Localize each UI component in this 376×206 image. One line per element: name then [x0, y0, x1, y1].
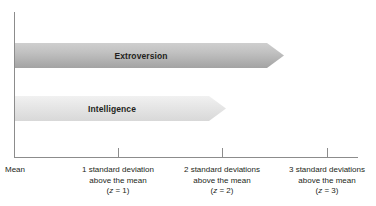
- bar-intelligence: Intelligence: [15, 96, 226, 121]
- x-axis-tick-3: [327, 148, 328, 157]
- standard-deviation-arrow-chart: Extroversion Intelligence Mean 1 standar…: [0, 0, 376, 206]
- x-axis-label-3-line2: above the mean: [298, 176, 355, 185]
- bar-extroversion-shape: [15, 43, 284, 68]
- x-axis-label-3: 3 standard deviations above the mean (z …: [265, 165, 376, 197]
- bar-intelligence-shape: [15, 96, 226, 121]
- x-axis-tick-1: [118, 148, 119, 157]
- x-axis-label-3-line1: 3 standard deviations: [289, 165, 365, 174]
- axis-origin-label: Mean: [5, 165, 25, 174]
- x-axis-label-2-line1: 2 standard deviations: [184, 165, 260, 174]
- x-axis-line: [14, 157, 358, 158]
- x-axis-tick-2: [222, 148, 223, 157]
- x-axis-label-2-line2: above the mean: [193, 176, 250, 185]
- y-axis-line: [14, 12, 15, 158]
- bar-extroversion: Extroversion: [15, 43, 284, 68]
- x-axis-label-1-line2: above the mean: [89, 176, 146, 185]
- x-axis-label-3-zscore: (z = 3): [265, 186, 376, 197]
- x-axis-label-1-line1: 1 standard deviation: [82, 165, 154, 174]
